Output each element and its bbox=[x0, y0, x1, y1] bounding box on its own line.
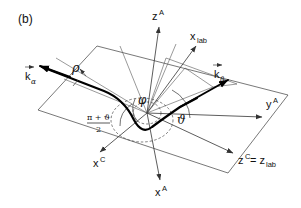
axis-label-z-A: z A bbox=[152, 8, 164, 22]
half-sum-numerator: π + ϑ bbox=[87, 113, 110, 122]
axis-label-z-lab-sub: lab bbox=[266, 160, 276, 169]
axis-label-x-lab-base: x bbox=[190, 30, 196, 42]
figure-panel-b: (b) z A x lab y A x A x C z C = z lab k … bbox=[0, 0, 301, 208]
axis-label-z-C-base: z bbox=[238, 154, 244, 166]
axis-label-x-C-base: x bbox=[93, 157, 99, 169]
vector-label-k-alpha: k α bbox=[25, 67, 36, 86]
axis-label-y-A-base: y bbox=[266, 98, 272, 110]
axis-label-z-A-base: z bbox=[152, 10, 158, 22]
diagram-canvas: (b) z A x lab y A x A x C z C = z lab k … bbox=[0, 0, 301, 208]
axis-line-z-A bbox=[147, 27, 159, 113]
axis-line-y-A bbox=[147, 113, 262, 117]
axis-label-z-A-sup: A bbox=[159, 8, 164, 17]
axis-label-x-C: x C bbox=[93, 155, 106, 169]
axis-label-z-C-lab: z C = z lab bbox=[238, 152, 276, 169]
helper-ray-upper-left bbox=[56, 58, 147, 113]
label-half-sum-angle: π + ϑ 2 bbox=[87, 113, 110, 134]
label-rho: ρ bbox=[71, 60, 80, 75]
axis-label-x-A: x A bbox=[155, 184, 167, 198]
k-alpha-sub: α bbox=[31, 77, 36, 86]
axis-line-z-C-lab bbox=[147, 113, 233, 153]
axis-label-x-lab: x lab bbox=[190, 30, 207, 45]
k-beta-arrow bbox=[180, 80, 228, 107]
k-alpha-arrow bbox=[40, 66, 70, 77]
vector-label-k-beta: k β bbox=[213, 65, 225, 84]
axis-label-z-C-equals: = z bbox=[250, 154, 265, 166]
axis-label-x-lab-sub: lab bbox=[197, 36, 207, 45]
k-beta-sub: β bbox=[219, 75, 225, 84]
half-sum-denominator: 2 bbox=[96, 125, 101, 134]
label-phi: φ bbox=[138, 93, 147, 107]
axis-label-x-A-sup: A bbox=[162, 184, 167, 193]
label-theta: ϑ bbox=[177, 113, 186, 127]
axis-label-x-A-base: x bbox=[155, 186, 161, 198]
panel-label: (b) bbox=[18, 12, 33, 26]
rho-leader-line bbox=[80, 69, 86, 76]
axis-label-y-A-sup: A bbox=[273, 96, 278, 105]
axis-label-y-A: y A bbox=[266, 96, 278, 110]
axis-label-x-C-sup: C bbox=[100, 155, 106, 164]
